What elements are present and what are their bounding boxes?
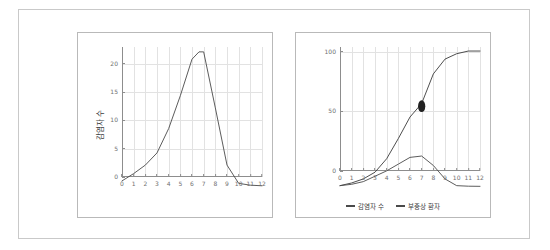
x-tick-label: 0: [120, 177, 124, 187]
legend-swatch-icon: [396, 205, 405, 206]
chart-panel-left: 감염자 수 05101520 0123456789101112: [77, 32, 273, 218]
x-tick-label: 1: [350, 171, 354, 181]
y-tick-mark: [122, 148, 125, 149]
x-tick-mark: [479, 168, 480, 171]
marker-point: [418, 100, 425, 112]
legend-swatch-icon: [346, 205, 355, 206]
x-tick-mark: [121, 174, 122, 177]
x-tick-label: 1: [132, 177, 136, 187]
y-tick-label: 15: [110, 89, 122, 95]
x-tick-label: 5: [396, 171, 400, 181]
chart-legend-right: 감염자 수부중상 환자: [296, 201, 490, 211]
x-tick-mark: [374, 168, 375, 171]
legend-item: 감염자 수: [346, 201, 384, 211]
x-tick-mark: [398, 168, 399, 171]
x-tick-mark: [468, 168, 469, 171]
x-tick-mark: [386, 168, 387, 171]
x-tick-label: 6: [190, 177, 194, 187]
x-tick-label: 8: [213, 177, 217, 187]
x-tick-label: 11: [247, 177, 255, 187]
x-tick-label: 5: [178, 177, 182, 187]
y-tick-mark: [122, 92, 125, 93]
x-tick-mark: [339, 168, 340, 171]
x-tick-mark: [145, 174, 146, 177]
x-tick-label: 0: [338, 171, 342, 181]
series-line: [340, 51, 480, 186]
x-tick-label: 8: [431, 171, 435, 181]
y-tick-mark: [122, 63, 125, 64]
x-tick-label: 9: [225, 177, 229, 187]
chart-panel-right: 050100 0123456789101112 감염자 수부중상 환자: [295, 32, 491, 218]
legend-label: 부중상 환자: [408, 201, 440, 211]
curves-right: [340, 47, 480, 187]
x-tick-mark: [421, 168, 422, 171]
x-tick-mark: [215, 174, 216, 177]
y-tick-label: 20: [110, 61, 122, 67]
x-tick-label: 12: [476, 171, 484, 181]
x-tick-mark: [238, 174, 239, 177]
x-tick-mark: [133, 174, 134, 177]
x-tick-label: 10: [453, 171, 461, 181]
x-tick-mark: [261, 174, 262, 177]
x-tick-mark: [409, 168, 410, 171]
x-tick-mark: [444, 168, 445, 171]
x-tick-mark: [168, 174, 169, 177]
x-tick-mark: [226, 174, 227, 177]
x-tick-mark: [191, 174, 192, 177]
x-tick-label: 6: [408, 171, 412, 181]
x-tick-mark: [203, 174, 204, 177]
x-tick-label: 11: [465, 171, 473, 181]
figure-frame: 감염자 수 05101520 0123456789101112 050100 0…: [18, 9, 530, 239]
x-tick-mark: [156, 174, 157, 177]
y-tick-label: 50: [328, 108, 340, 114]
gridline-vertical: [480, 47, 481, 171]
y-tick-label: 100: [325, 49, 340, 55]
x-tick-label: 3: [155, 177, 159, 187]
series-line: [122, 52, 262, 186]
x-tick-mark: [363, 168, 364, 171]
x-tick-label: 2: [143, 177, 147, 187]
x-tick-mark: [351, 168, 352, 171]
x-tick-mark: [180, 174, 181, 177]
plot-area-left: 05101520 0123456789101112: [122, 47, 262, 177]
x-tick-mark: [250, 174, 251, 177]
y-tick-mark: [340, 51, 343, 52]
curve-left: [122, 47, 262, 187]
x-tick-label: 4: [385, 171, 389, 181]
x-tick-label: 9: [443, 171, 447, 181]
y-tick-label: 5: [114, 146, 122, 152]
y-tick-mark: [340, 111, 343, 112]
y-axis-label-left: 감염자 수: [94, 110, 105, 140]
x-tick-label: 4: [167, 177, 171, 187]
x-tick-label: 12: [258, 177, 266, 187]
y-tick-label: 10: [110, 117, 122, 123]
gridline-vertical: [262, 47, 263, 177]
x-tick-mark: [456, 168, 457, 171]
x-tick-label: 7: [202, 177, 206, 187]
plot-area-right: 050100 0123456789101112: [340, 47, 480, 171]
x-tick-label: 7: [420, 171, 424, 181]
x-tick-label: 3: [373, 171, 377, 181]
legend-item: 부중상 환자: [396, 201, 440, 211]
x-tick-mark: [433, 168, 434, 171]
legend-label: 감염자 수: [358, 201, 384, 211]
x-tick-label: 2: [361, 171, 365, 181]
x-tick-label: 10: [235, 177, 243, 187]
y-tick-mark: [122, 120, 125, 121]
